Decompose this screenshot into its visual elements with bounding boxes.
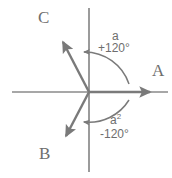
phasor-vectors <box>63 42 150 136</box>
arc-minus-120-path <box>84 100 129 122</box>
phasor-vector-b <box>66 92 89 136</box>
phasor-vector-c <box>63 42 89 92</box>
operator-label-a-squared: a2 <box>110 113 121 126</box>
operator-exponent: 2 <box>117 112 121 121</box>
axis-lines <box>12 8 168 172</box>
angle-label-plus-120: +120° <box>98 42 130 54</box>
operator-base: a <box>110 113 117 127</box>
phasor-diagram-figure: C B A a +120° a2 -120° <box>0 0 172 178</box>
phasor-label-c: C <box>38 9 49 26</box>
angle-arcs <box>84 52 129 122</box>
angle-label-minus-120: -120° <box>100 128 129 140</box>
phasor-label-b: B <box>39 145 50 162</box>
phasor-label-a: A <box>152 62 164 79</box>
arc-plus-120-path <box>84 52 129 84</box>
phasor-diagram-canvas <box>0 0 172 178</box>
